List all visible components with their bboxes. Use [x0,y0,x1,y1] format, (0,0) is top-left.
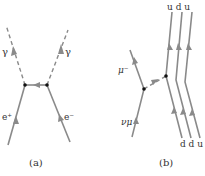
label-top-quarks: u d u [167,2,190,12]
muon-line [130,50,144,89]
neutrino-line [132,89,144,137]
label-gamma-left: γ [2,46,8,57]
quark-line-2 [176,12,191,138]
quark-arrow-top-1-icon [167,43,173,50]
panel-b: μ⁻ νμ u d u d d u (b) [118,2,203,168]
quark-arrow-bottom-2-icon [180,108,186,115]
label-electron: e⁻ [64,112,74,122]
quark-arrow-bottom-1-icon [171,107,177,114]
quark-arrow-bottom-3-icon [189,109,195,116]
photon-arrow-left-icon [11,46,17,56]
feynman-diagram-canvas: γ γ e⁺ e⁻ (a) μ⁻ νμ u d u d d u (b) [0,0,205,176]
caption-b: (b) [159,157,173,168]
label-bottom-quarks: d d u [180,139,203,149]
label-neutrino: νμ [121,117,132,127]
label-positron: e⁺ [2,112,12,122]
propagator-arrow-icon [33,82,40,88]
caption-a: (a) [29,157,43,168]
neutrino-arrow-icon [133,117,139,124]
vertex-quark [164,74,168,78]
vertex-left [23,83,27,87]
positron-arrow-icon [13,116,19,124]
photon-line-left [6,25,25,85]
photon-arrow-right-icon [58,44,64,54]
photon-line-right [47,30,68,85]
quark-line-3 [185,12,200,138]
label-gamma-right: γ [65,46,71,57]
panel-a: γ γ e⁺ e⁻ (a) [2,25,74,168]
vertex-right [45,83,49,87]
vertex-lepton [142,87,146,91]
label-muon: μ⁻ [118,65,129,75]
